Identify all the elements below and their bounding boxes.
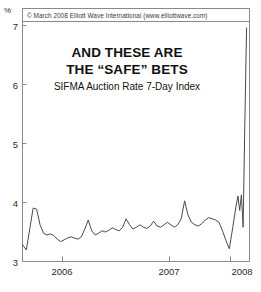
chart-page: © March 2008 Elliott Wave International … bbox=[0, 0, 261, 292]
y-tick-label-4: 4 bbox=[6, 198, 18, 209]
copyright-box: © March 2008 Elliott Wave International … bbox=[22, 8, 250, 22]
line-chart-svg bbox=[22, 22, 250, 262]
x-tick-marks bbox=[63, 257, 231, 262]
axis-frame bbox=[23, 22, 250, 262]
copyright-text: © March 2008 Elliott Wave International … bbox=[23, 12, 208, 19]
y-tick-marks bbox=[23, 26, 27, 262]
y-tick-label-7: 7 bbox=[6, 21, 18, 32]
plot-area bbox=[22, 22, 250, 262]
y-tick-label-6: 6 bbox=[6, 80, 18, 91]
y-tick-label-3: 3 bbox=[6, 257, 18, 268]
x-tick-label-2006: 2006 bbox=[51, 266, 72, 277]
y-tick-label-5: 5 bbox=[6, 139, 18, 150]
x-tick-label-2007: 2007 bbox=[158, 266, 179, 277]
data-series-line bbox=[22, 28, 247, 250]
y-axis-tick-labels: 3 4 5 6 7 bbox=[0, 0, 18, 292]
x-tick-label-2008: 2008 bbox=[231, 266, 252, 277]
